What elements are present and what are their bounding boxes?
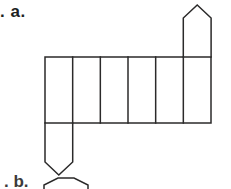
strip-face-6 — [183, 57, 211, 123]
strip-face-4 — [128, 57, 156, 123]
item-label-b-partial: . b. — [4, 172, 29, 189]
bottom-hexagon-face — [45, 123, 73, 175]
strip-face-1 — [45, 57, 73, 123]
top-hexagon-face — [183, 5, 211, 57]
figure-canvas: . a. . b. — [0, 0, 231, 189]
strip-face-3 — [100, 57, 128, 123]
strip-face-2 — [73, 57, 101, 123]
strip-face-5 — [156, 57, 184, 123]
hexagonal-prism-net-drawing — [0, 0, 231, 189]
cropped-hexagon-b-arc — [44, 178, 88, 189]
